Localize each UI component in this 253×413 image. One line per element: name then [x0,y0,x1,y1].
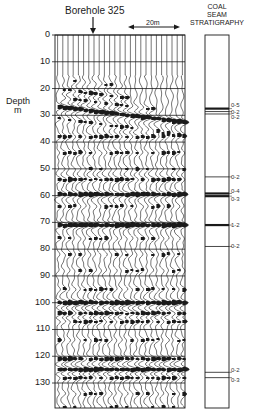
seam-thickness-label: 0-4 [231,188,240,194]
seismic-section [0,0,253,413]
seam-thickness-label: 0-5 [231,102,240,108]
seam-thickness-label: 0-2 [231,174,240,180]
seam-thickness-label: 0-2 [231,243,240,249]
seam-thickness-label: 1-2 [231,222,240,228]
seam-thickness-label: 0-2 [231,114,240,120]
seam-thickness-label: 0-3 [231,377,240,383]
seam-thickness-label: 0-2 [231,367,240,373]
seam-thickness-label: 0-3 [231,196,240,202]
